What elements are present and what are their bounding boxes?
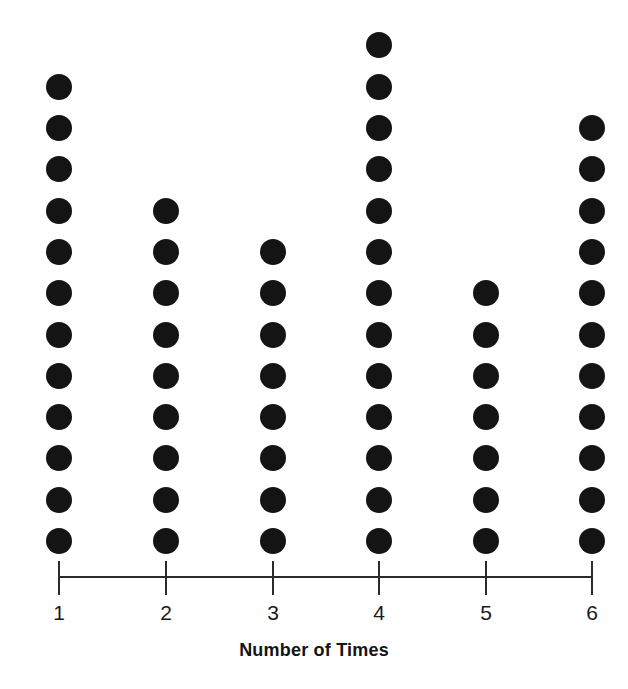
data-dot [153, 445, 179, 471]
data-dot [473, 322, 499, 348]
data-dot [153, 487, 179, 513]
data-dot [473, 487, 499, 513]
data-dot [473, 528, 499, 554]
data-dot [473, 280, 499, 306]
data-dot [579, 156, 605, 182]
data-dot [366, 404, 392, 430]
data-dot [46, 74, 72, 100]
axis-tick-label: 3 [253, 601, 293, 625]
data-dot [260, 528, 286, 554]
data-dot [366, 280, 392, 306]
data-dot [366, 445, 392, 471]
axis-tick [378, 561, 380, 595]
axis-tick [485, 561, 487, 595]
data-dot [366, 487, 392, 513]
data-dot [260, 404, 286, 430]
data-dot [46, 198, 72, 224]
dot-plot-chart: Number of Times 123456 [0, 0, 628, 689]
data-dot [153, 280, 179, 306]
axis-tick-label: 2 [146, 601, 186, 625]
data-dot [46, 404, 72, 430]
data-dot [579, 528, 605, 554]
data-dot [46, 363, 72, 389]
data-dot [579, 445, 605, 471]
data-dot [366, 239, 392, 265]
data-dot [366, 322, 392, 348]
data-dot [579, 239, 605, 265]
data-dot [579, 115, 605, 141]
axis-tick [165, 561, 167, 595]
data-dot [46, 322, 72, 348]
axis-tick [272, 561, 274, 595]
data-dot [579, 322, 605, 348]
data-dot [579, 487, 605, 513]
data-dot [153, 198, 179, 224]
data-dot [46, 528, 72, 554]
x-axis-line [59, 576, 593, 578]
data-dot [260, 363, 286, 389]
data-dot [366, 156, 392, 182]
data-dot [260, 280, 286, 306]
data-dot [366, 198, 392, 224]
data-dot [579, 198, 605, 224]
axis-tick-label: 1 [39, 601, 79, 625]
data-dot [153, 404, 179, 430]
axis-tick-label: 5 [466, 601, 506, 625]
data-dot [366, 115, 392, 141]
data-dot [579, 280, 605, 306]
data-dot [46, 445, 72, 471]
data-dot [46, 156, 72, 182]
data-dot [46, 280, 72, 306]
data-dot [153, 239, 179, 265]
data-dot [366, 528, 392, 554]
data-dot [153, 363, 179, 389]
data-dot [366, 363, 392, 389]
data-dot [260, 322, 286, 348]
data-dot [473, 445, 499, 471]
data-dot [579, 363, 605, 389]
x-axis-title: Number of Times [0, 640, 628, 661]
data-dot [153, 528, 179, 554]
data-dot [473, 363, 499, 389]
data-dot [46, 115, 72, 141]
data-dot [46, 487, 72, 513]
data-dot [260, 487, 286, 513]
axis-tick-label: 4 [359, 601, 399, 625]
data-dot [153, 322, 179, 348]
axis-tick [591, 561, 593, 595]
data-dot [260, 445, 286, 471]
data-dot [366, 74, 392, 100]
axis-tick [58, 561, 60, 595]
data-dot [579, 404, 605, 430]
data-dot [46, 239, 72, 265]
data-dot [473, 404, 499, 430]
data-dot [260, 239, 286, 265]
data-dot [366, 32, 392, 58]
axis-tick-label: 6 [572, 601, 612, 625]
